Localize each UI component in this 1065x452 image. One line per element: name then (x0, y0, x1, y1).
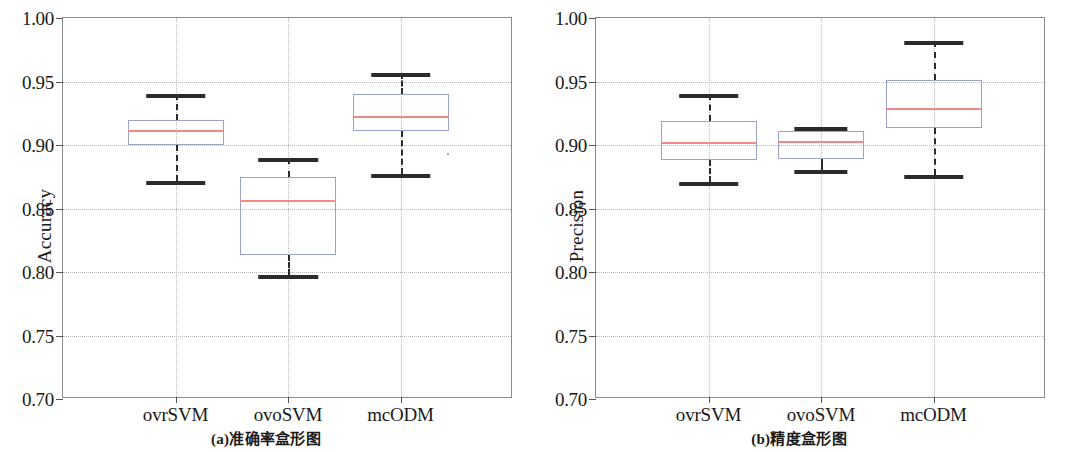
whisker-cap-lower (794, 170, 847, 174)
y-axis-tick (589, 399, 596, 400)
x-axis-tick-label-ovrsvm: ovrSVM (143, 405, 208, 425)
gridline-horizontal (596, 209, 1044, 210)
whisker-cap-lower (679, 182, 739, 186)
whisker-cap-upper (679, 94, 739, 98)
x-axis-tick (176, 397, 177, 403)
gridline-horizontal (63, 336, 511, 337)
whisker-cap-upper (904, 41, 964, 45)
y-axis-tick-label-precision: 0.95 (555, 72, 587, 91)
gridline-vertical (821, 18, 822, 397)
y-axis-tick-label-precision: 0.70 (555, 390, 587, 409)
y-axis-tick-label-precision: 0.75 (555, 326, 587, 345)
whisker-upper (934, 41, 936, 80)
y-axis-tick (589, 18, 596, 19)
y-axis-tick (56, 272, 63, 273)
whisker-cap-upper (146, 94, 206, 98)
whisker-lower (288, 255, 290, 274)
plot-area-precision: 0.700.750.800.850.900.951.00ovrSVMovoSVM… (595, 17, 1045, 398)
y-axis-tick (56, 145, 63, 146)
median-line (886, 108, 982, 110)
plot-area-accuracy: 0.700.750.800.850.900.951.00ovrSVMovoSVM… (62, 17, 512, 398)
y-axis-tick (56, 209, 63, 210)
y-axis-tick (589, 272, 596, 273)
y-axis-tick (589, 336, 596, 337)
x-axis-tick (821, 397, 822, 403)
whisker-cap-lower (146, 181, 206, 185)
y-axis-tick (56, 336, 63, 337)
whisker-cap-lower (371, 174, 431, 178)
whisker-lower (176, 145, 178, 181)
whisker-lower (709, 160, 711, 182)
boxplot-figure: Accuracy 0.700.750.800.850.900.951.00ovr… (0, 0, 1065, 452)
y-axis-tick-label-accuracy: 0.95 (22, 72, 54, 91)
whisker-cap-lower (258, 275, 318, 279)
whisker-cap-lower (904, 175, 964, 179)
box-iqr (778, 131, 864, 159)
y-axis-tick-label-precision: 0.85 (555, 199, 587, 218)
gridline-horizontal (63, 82, 511, 83)
x-axis-tick-label-ovrsvm: ovrSVM (676, 405, 741, 425)
y-axis-tick (56, 18, 63, 19)
x-axis-tick-label-ovosvm: ovoSVM (787, 405, 855, 425)
y-axis-tick-label-accuracy: 1.00 (22, 9, 54, 28)
box-iqr (240, 177, 336, 256)
whisker-lower (821, 159, 823, 170)
x-axis-tick (288, 397, 289, 403)
whisker-lower (934, 128, 936, 175)
median-line (240, 200, 336, 202)
y-axis-tick-label-precision: 0.80 (555, 263, 587, 282)
y-axis-tick-label-accuracy: 0.85 (22, 199, 54, 218)
box-iqr (886, 80, 982, 128)
x-axis-tick (934, 397, 935, 403)
gridline-vertical (176, 18, 177, 397)
y-axis-tick-label-accuracy: 0.70 (22, 390, 54, 409)
y-axis-tick (56, 399, 63, 400)
x-axis-tick-label-mcodm: mcODM (367, 405, 434, 425)
y-axis-tick (589, 145, 596, 146)
y-axis-tick (589, 209, 596, 210)
panel-caption-precision: (b)精度盒形图 (533, 427, 1065, 448)
y-axis-tick-label-accuracy: 0.75 (22, 326, 54, 345)
box-iqr (353, 94, 449, 131)
gridline-horizontal (596, 272, 1044, 273)
x-axis-tick-label-ovosvm: ovoSVM (254, 405, 322, 425)
outlier-point (447, 153, 449, 155)
panel-caption-accuracy: (a)准确率盒形图 (0, 427, 532, 448)
panel-precision: Precision 0.700.750.800.850.900.951.00ov… (533, 0, 1065, 452)
box-iqr (128, 120, 224, 145)
x-axis-tick-label-mcodm: mcODM (900, 405, 967, 425)
gridline-horizontal (596, 336, 1044, 337)
median-line (778, 141, 864, 143)
gridline-vertical (709, 18, 710, 397)
panel-accuracy: Accuracy 0.700.750.800.850.900.951.00ovr… (0, 0, 532, 452)
y-axis-tick (56, 82, 63, 83)
y-axis-tick-label-precision: 0.90 (555, 136, 587, 155)
y-axis-tick-label-accuracy: 0.80 (22, 263, 54, 282)
gridline-horizontal (63, 272, 511, 273)
gridline-horizontal (63, 145, 511, 146)
whisker-cap-upper (371, 73, 431, 77)
box-iqr (661, 121, 757, 160)
median-line (661, 142, 757, 144)
x-axis-tick (709, 397, 710, 403)
median-line (353, 116, 449, 118)
median-line (128, 130, 224, 132)
x-axis-tick (401, 397, 402, 403)
whisker-lower (401, 131, 403, 174)
whisker-cap-upper (258, 158, 318, 162)
y-axis-tick-label-accuracy: 0.90 (22, 136, 54, 155)
y-axis-tick-label-precision: 1.00 (555, 9, 587, 28)
y-axis-tick (589, 82, 596, 83)
